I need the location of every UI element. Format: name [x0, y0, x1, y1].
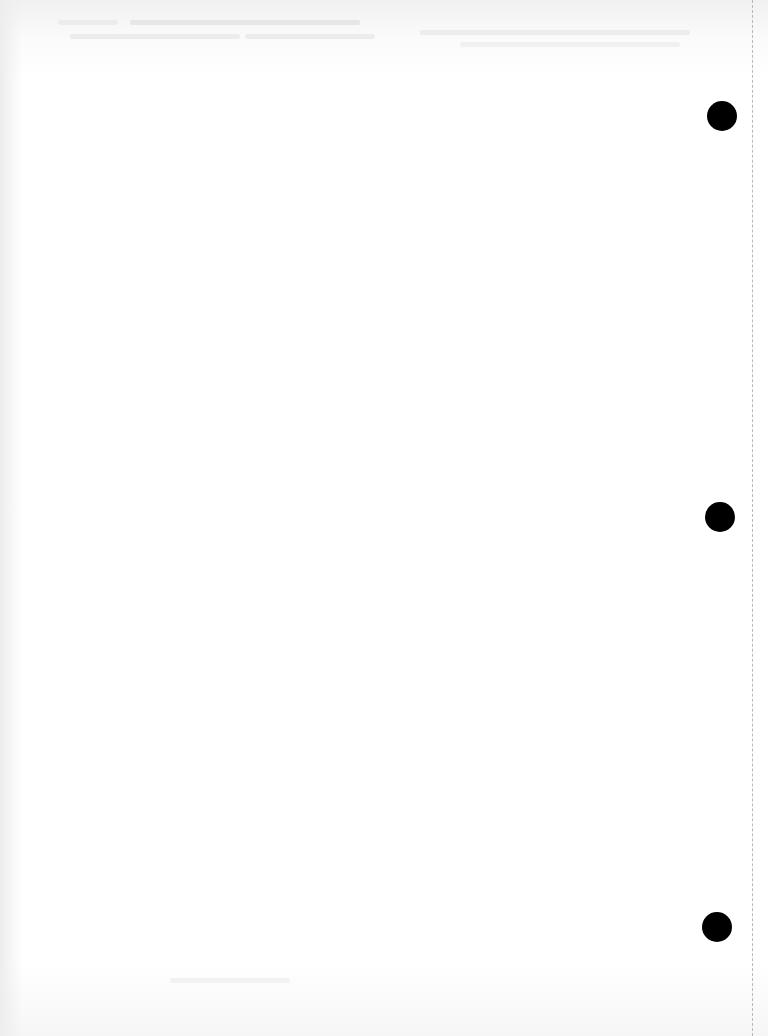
hole-punch-bottom	[702, 912, 732, 942]
hole-punch-top	[707, 101, 737, 131]
perforation-line	[752, 0, 753, 1036]
hole-punch-middle	[705, 502, 735, 532]
scanned-page	[0, 0, 768, 1036]
page-edge-shadow	[0, 0, 22, 1036]
